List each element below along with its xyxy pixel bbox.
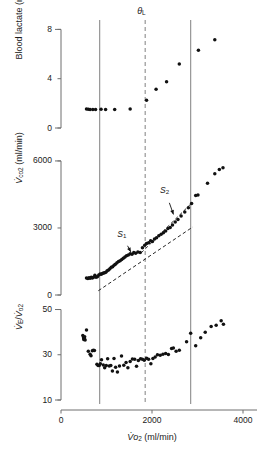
panel-ve-vo2: [55, 310, 225, 400]
data-point: [197, 49, 201, 53]
y-tick-label: 30: [0, 349, 52, 359]
data-point: [199, 336, 203, 340]
data-point: [145, 99, 149, 103]
series-points: [85, 38, 217, 111]
annotation-label-s1: S1: [117, 229, 126, 239]
y-axis-label-vco2: V̇co2 (ml/min): [14, 103, 24, 213]
data-point: [185, 340, 189, 344]
data-point: [218, 168, 222, 172]
series-points: [81, 319, 225, 374]
data-point: [93, 349, 97, 353]
data-point: [85, 328, 89, 332]
panel-lactate: [55, 29, 217, 128]
data-point: [190, 202, 194, 206]
data-point: [113, 108, 117, 112]
data-point: [135, 365, 139, 369]
y-tick-label: 0: [0, 290, 52, 300]
data-point: [109, 364, 113, 368]
x-tick-label: 0: [43, 415, 79, 425]
data-point: [167, 353, 171, 357]
data-point: [176, 218, 180, 222]
data-point: [165, 80, 169, 84]
data-point: [111, 369, 115, 373]
y-axis-label-ve-vo2: V̇E/V̇o2: [14, 282, 24, 352]
data-point: [222, 322, 226, 326]
data-point: [105, 364, 109, 368]
data-point: [83, 338, 87, 342]
data-point: [206, 182, 210, 186]
data-point: [104, 108, 108, 112]
annotation-arrow-head: [170, 210, 174, 215]
y-tick-label: 6000: [0, 155, 52, 165]
data-point: [173, 220, 177, 224]
y-tick-label: 4: [0, 73, 52, 83]
data-point: [118, 364, 122, 368]
data-point: [149, 362, 153, 366]
data-point: [178, 62, 182, 66]
theta-l-label: θL: [137, 6, 146, 16]
data-point: [124, 361, 128, 365]
data-point: [183, 210, 187, 214]
data-point: [219, 319, 223, 323]
data-point: [94, 108, 98, 112]
data-point: [116, 370, 120, 374]
data-point: [114, 365, 118, 369]
data-point: [189, 332, 193, 336]
data-point: [87, 350, 91, 354]
x-axis-label: V̇o2 (ml/min): [61, 432, 243, 442]
data-point: [99, 108, 103, 112]
data-point: [164, 229, 168, 233]
panel-vco2: [55, 161, 225, 295]
y-tick-label: 8: [0, 24, 52, 34]
data-point: [174, 349, 178, 353]
data-point: [196, 193, 200, 197]
data-point: [172, 346, 176, 350]
data-point: [89, 354, 93, 358]
data-point: [213, 38, 217, 42]
data-point: [214, 324, 218, 328]
data-point: [179, 214, 183, 218]
data-point: [187, 206, 191, 210]
data-point: [178, 348, 182, 352]
data-point: [213, 172, 217, 176]
data-point: [171, 223, 175, 227]
y-axis-label-lactate: Blood lactate (mmol/l): [14, 0, 24, 75]
data-point: [83, 335, 87, 339]
data-point: [106, 357, 110, 361]
data-point: [147, 358, 151, 362]
data-point: [209, 325, 213, 329]
data-point: [133, 358, 137, 362]
data-point: [120, 354, 124, 358]
series-points: [85, 166, 225, 280]
y-tick-label: 0: [0, 123, 52, 133]
data-point: [122, 363, 126, 367]
data-point: [154, 87, 158, 91]
y-tick-label: 10: [0, 395, 52, 405]
data-point: [112, 357, 116, 361]
data-point: [100, 358, 104, 362]
y-tick-label: 3000: [0, 222, 52, 232]
annotation-label-s2: S2: [160, 185, 169, 195]
y-tick-label: 50: [0, 304, 52, 314]
data-point: [203, 330, 207, 334]
data-point: [138, 251, 142, 255]
data-point: [194, 344, 198, 348]
data-point: [221, 166, 225, 170]
x-tick-label: 4000: [225, 415, 261, 425]
data-point: [126, 366, 130, 370]
x-tick-label: 2000: [134, 415, 170, 425]
data-point: [128, 107, 132, 111]
